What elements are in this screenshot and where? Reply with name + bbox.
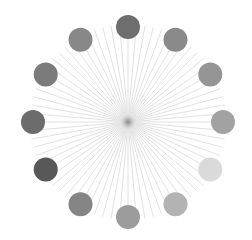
gray-circle <box>21 110 45 134</box>
gray-circle <box>198 63 222 87</box>
gray-circle <box>69 192 93 216</box>
radial-circle-figure <box>0 0 252 240</box>
gray-circle <box>116 15 140 39</box>
gray-circle <box>164 28 188 52</box>
gray-circle <box>69 28 93 52</box>
gray-circle <box>34 158 58 182</box>
gray-circle <box>116 205 140 229</box>
starburst-graphic <box>0 0 252 240</box>
gray-circle <box>164 192 188 216</box>
gray-circle <box>34 63 58 87</box>
gray-circle <box>198 158 222 182</box>
center-hub <box>118 112 138 132</box>
gray-circle <box>211 110 235 134</box>
